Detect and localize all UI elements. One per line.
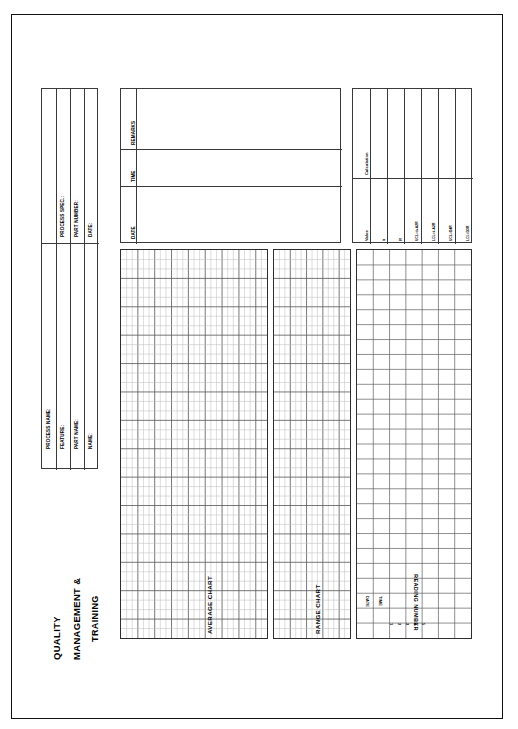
title-line-2: MANAGEMENT &	[72, 578, 81, 660]
calc-input-ucl-r[interactable]	[439, 90, 454, 176]
field-input-date[interactable]	[85, 93, 97, 233]
title-line-3: TRAINING	[91, 595, 100, 642]
average-chart-label: AVERAGE CHART	[207, 576, 213, 634]
calc-input-lcl-xbar[interactable]	[422, 90, 437, 176]
calculation-block: Calculation Value x̄ R UCL=x̄+A2R̄ LCL=x…	[352, 88, 472, 243]
log-block: REMARKS TIME DATE	[120, 88, 341, 243]
reading-number-1: 1	[389, 623, 393, 625]
field-input-name[interactable]	[85, 264, 97, 444]
reading-number-2: 2	[397, 623, 401, 625]
log-input-remarks[interactable]	[137, 90, 341, 148]
calc-input-r[interactable]	[388, 90, 403, 176]
field-input-feature[interactable]	[57, 264, 69, 444]
calc-input-xbar[interactable]	[371, 90, 386, 176]
calc-label-value: Value	[365, 230, 369, 241]
header-block: PROCESS NAME: FEATURE: PART NAME: NAME: …	[41, 88, 98, 469]
calc-label-ucl-r: UCL=D4R̄	[450, 225, 453, 241]
calc-input-ucl-xbar[interactable]	[405, 90, 420, 176]
calc-label-lcl-r: LCL=D3R̄	[467, 226, 470, 241]
title-line-1: QUALITY	[52, 616, 61, 660]
field-input-part-number[interactable]	[71, 93, 83, 233]
log-label-time: TIME	[132, 170, 137, 182]
log-label-date: DATE	[132, 226, 137, 239]
range-chart-label: RANGE CHART	[315, 584, 321, 634]
reading-number-5: 5	[421, 623, 425, 625]
average-chart-grid[interactable]	[120, 249, 268, 639]
calc-header-split	[353, 178, 473, 179]
calc-label-ucl-xbar: UCL=x̄+A2R̄	[416, 221, 419, 241]
range-chart-grid[interactable]	[273, 249, 351, 639]
log-label-remarks: REMARKS	[132, 121, 137, 145]
log-input-date[interactable]	[137, 187, 341, 243]
side-column-label-time: TIME	[378, 596, 382, 606]
range-chart-gridlines	[274, 250, 350, 638]
field-input-process-name[interactable]	[43, 264, 55, 444]
calc-input-lcl-r[interactable]	[456, 90, 471, 176]
log-input-time[interactable]	[137, 150, 341, 185]
side-column-label-date: DATE	[365, 596, 369, 607]
header-row-split	[42, 243, 99, 244]
reading-number-band: DATE TIME READING NUMBER 1 2 3 4 5	[356, 566, 472, 639]
calc-input-value[interactable]	[354, 90, 369, 176]
field-input-process-spec[interactable]	[57, 93, 69, 233]
calc-label-lcl-xbar: LCL=x̄-A2R̄	[433, 223, 436, 241]
reading-number-4: 4	[413, 623, 417, 625]
form-sheet: QUALITY MANAGEMENT & TRAINING PROCESS NA…	[0, 0, 518, 729]
calc-label-r: R	[399, 238, 403, 241]
average-chart-gridlines	[121, 250, 267, 638]
reading-number-3: 3	[405, 623, 409, 625]
calc-label-xbar: x̄	[382, 239, 386, 241]
field-input-part-name[interactable]	[71, 264, 83, 444]
